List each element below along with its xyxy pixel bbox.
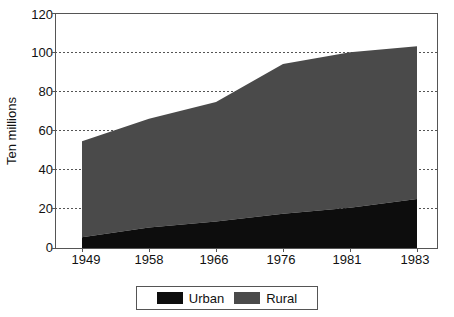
x-axis-tick-labels: 1949 1958 1966 1976 1981 1983 (0, 253, 454, 271)
x-tick-1983: 1983 (390, 253, 440, 266)
legend-item-urban: Urban (157, 292, 224, 305)
legend-label-rural: Rural (266, 292, 297, 305)
population-area-chart: Ten millions 120 100 80 60 40 20 0 1949 … (0, 0, 454, 317)
x-tick-1949: 1949 (61, 253, 111, 266)
legend-item-rural: Rural (234, 292, 297, 305)
x-tick-1981: 1981 (322, 253, 372, 266)
legend-swatch-urban (157, 292, 183, 304)
legend-label-urban: Urban (189, 292, 224, 305)
legend-swatch-rural (234, 292, 260, 304)
x-tick-1958: 1958 (124, 253, 174, 266)
x-tick-1976: 1976 (256, 253, 306, 266)
x-tick-1966: 1966 (189, 253, 239, 266)
chart-legend: Urban Rural (136, 286, 318, 310)
